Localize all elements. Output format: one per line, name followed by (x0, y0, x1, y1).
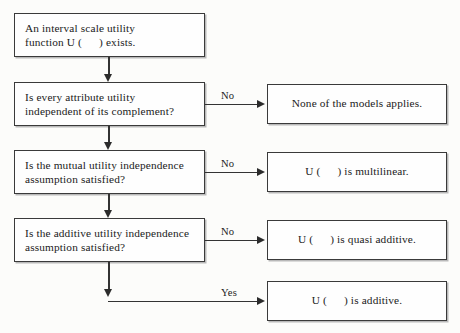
node-start-line1: An interval scale utility (25, 22, 135, 34)
node-r4-post: ) is additive. (344, 294, 402, 306)
edge-label-no-1: No (221, 90, 234, 101)
node-r3-text: U () is quasi additive. (268, 233, 446, 247)
node-result-none-applies[interactable]: None of the models applies. (267, 84, 447, 124)
node-q1-line2: independent of its complement? (25, 105, 174, 117)
connector-q1-to-r1 (205, 104, 259, 106)
node-result-multilinear[interactable]: U () is multilinear. (267, 152, 447, 192)
connector-q3-yes-horizontal (108, 301, 259, 303)
connector-q3-to-r3 (205, 240, 259, 242)
node-q3-text: Is the additive utility independenceassu… (25, 227, 198, 254)
node-q2-line2: assumption satisfied? (25, 173, 125, 185)
edge-label-no-3: No (221, 226, 234, 237)
node-q1-text: Is every attribute utilityindependent of… (25, 91, 198, 118)
arrowhead-yes-to-r4 (257, 297, 265, 305)
node-r3-pre: U ( (298, 233, 313, 245)
flowchart-canvas: An interval scale utilityfunction U () e… (0, 0, 460, 333)
node-r2-text: U () is multilinear. (268, 165, 446, 179)
node-r4-text: U () is additive. (268, 294, 446, 308)
arrowhead-q2-to-q3 (104, 210, 112, 218)
node-start-line2-post: ) exists. (99, 36, 136, 48)
arrowhead-q3-to-r3 (257, 236, 265, 244)
node-q2-line1: Is the mutual utility independence (25, 159, 184, 171)
node-r4-pre: U ( (312, 294, 327, 306)
node-r2-pre: U ( (305, 165, 320, 177)
connector-q3-yes-vertical (108, 262, 110, 292)
node-question-additive-utility-independence[interactable]: Is the additive utility independenceassu… (14, 218, 205, 262)
node-result-additive[interactable]: U () is additive. (267, 281, 447, 321)
arrowhead-q2-to-r2 (257, 168, 265, 176)
arrowhead-q1-to-q2 (104, 142, 112, 150)
edge-label-no-2: No (221, 158, 234, 169)
arrowhead-q1-to-r1 (257, 100, 265, 108)
node-start-line2-pre: function U ( (25, 36, 82, 48)
node-q3-line1: Is the additive utility independence (25, 227, 189, 239)
arrowhead-start-to-q1 (104, 74, 112, 82)
node-q2-text: Is the mutual utility independenceassump… (25, 159, 198, 186)
node-start[interactable]: An interval scale utilityfunction U () e… (14, 13, 205, 57)
connector-q2-to-r2 (205, 172, 259, 174)
arrowhead-q3-yes-down (104, 289, 112, 297)
node-r1-text: None of the models applies. (268, 97, 446, 111)
edge-label-yes-1: Yes (221, 287, 237, 298)
node-result-quasi-additive[interactable]: U () is quasi additive. (267, 220, 447, 260)
node-q3-line2: assumption satisfied? (25, 241, 125, 253)
node-q1-line1: Is every attribute utility (25, 91, 135, 103)
node-question-mutual-utility-independence[interactable]: Is the mutual utility independenceassump… (14, 150, 205, 194)
node-question-attribute-utility-independence[interactable]: Is every attribute utilityindependent of… (14, 82, 205, 126)
node-r2-post: ) is multilinear. (337, 165, 408, 177)
node-r3-post: ) is quasi additive. (330, 233, 416, 245)
node-start-text: An interval scale utilityfunction U () e… (25, 22, 198, 49)
